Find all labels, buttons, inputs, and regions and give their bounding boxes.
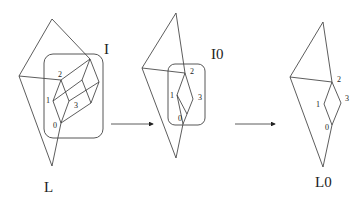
vertex-label-1: 1	[46, 96, 50, 105]
outer-edge	[290, 22, 332, 82]
outer-edge	[19, 76, 61, 80]
diamond-structure	[324, 82, 341, 125]
figure-lattice-L0: 2 1 3 0 L0	[290, 22, 349, 190]
box-label-I0: I0	[211, 46, 224, 62]
vertex-label-3: 3	[74, 101, 78, 110]
outer-edge	[290, 77, 332, 167]
lattice-diagram: 2 1 3 0 I L 2 1 3 0 I0 2 1 3 0 L0	[0, 0, 364, 201]
outer-edge	[19, 19, 90, 76]
box-label-I: I	[104, 41, 109, 57]
figure-label-L: L	[44, 179, 53, 195]
vertex-label-1: 1	[316, 100, 320, 109]
vertex-label-1: 1	[170, 91, 174, 100]
vertex-label-0: 0	[53, 121, 57, 130]
figure-lattice-L: 2 1 3 0 I L	[19, 19, 109, 195]
vertex-label-0: 0	[325, 123, 329, 132]
figure-label-L0: L0	[315, 174, 332, 190]
outer-edge	[142, 68, 183, 158]
vertex-label-3: 3	[345, 94, 349, 103]
cube-structure	[53, 59, 99, 123]
vertex-label-2: 2	[337, 75, 341, 84]
outer-edge	[290, 77, 332, 82]
vertex-label-2: 2	[58, 70, 62, 79]
figure-lattice-intermediate: 2 1 3 0 I0	[142, 13, 224, 158]
vertex-label-2: 2	[190, 67, 194, 76]
vertex-label-0: 0	[178, 114, 182, 123]
vertex-label-3: 3	[198, 93, 202, 102]
outer-edge	[142, 68, 185, 73]
